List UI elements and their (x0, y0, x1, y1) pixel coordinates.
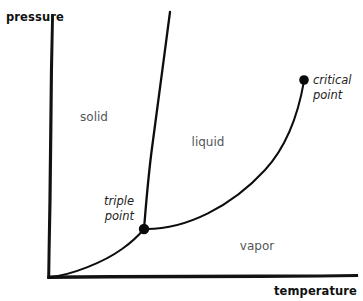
critical-point-label-line1: critical (313, 73, 352, 87)
region-label-solid: solid (80, 110, 108, 124)
phase-diagram-canvas: pressure temperature solid liquid vapor … (0, 0, 363, 301)
critical-point-label: critical point (312, 73, 352, 102)
phase-diagram-figure: pressure temperature solid liquid vapor … (0, 0, 363, 301)
marker-dots-group (139, 75, 309, 234)
critical-point-dot (299, 75, 309, 85)
triple-point-label-line1: triple (104, 194, 134, 208)
phase-boundary-curves (50, 12, 304, 277)
y-axis-label: pressure (6, 10, 64, 24)
region-label-vapor: vapor (240, 239, 274, 253)
region-label-liquid: liquid (192, 135, 225, 149)
triple-point-dot (139, 224, 149, 234)
sublimation-curve (50, 229, 144, 277)
vaporization-curve (144, 81, 304, 229)
triple-point-label-line2: point (104, 209, 135, 223)
fusion-curve (144, 12, 170, 229)
x-axis-line (47, 274, 358, 279)
triple-point-label: triple point (104, 194, 135, 223)
y-axis-line (47, 14, 54, 278)
x-axis-label: temperature (274, 284, 357, 298)
critical-point-label-line2: point (312, 88, 343, 102)
